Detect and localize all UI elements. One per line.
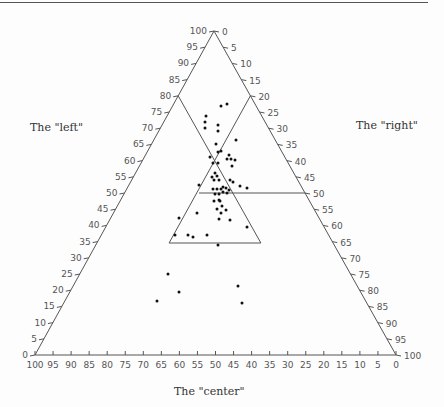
- left-tick: [30, 355, 35, 356]
- data-point: [246, 226, 249, 229]
- data-point: [225, 209, 228, 212]
- left-tick-label: 30: [70, 253, 82, 263]
- right-tick-label: 95: [395, 335, 406, 345]
- left-tick-label: 65: [133, 139, 144, 149]
- ref-line-left80: [178, 96, 261, 243]
- data-point: [229, 219, 232, 222]
- data-point: [220, 212, 223, 215]
- bottom-tick-label: 90: [65, 360, 77, 370]
- data-point: [174, 234, 177, 237]
- data-point: [231, 165, 234, 168]
- right-axis-label: The "right": [356, 114, 418, 133]
- right-tick-label: 80: [368, 286, 380, 296]
- data-point: [204, 121, 207, 124]
- right-tick-label: 85: [377, 302, 388, 312]
- left-tick-label: 10: [34, 318, 46, 328]
- bottom-tick-label: 5: [375, 360, 381, 370]
- bottom-tick-label: 80: [101, 360, 113, 370]
- data-point: [232, 181, 235, 184]
- left-tick-label: 35: [79, 237, 90, 247]
- data-point: [198, 184, 201, 187]
- left-axis-label: The "left": [30, 116, 83, 135]
- bottom-tick-label: 0: [393, 360, 399, 370]
- left-tick-label: 50: [106, 188, 118, 198]
- left-tick-label: 15: [43, 301, 54, 311]
- bottom-tick-label: 85: [83, 360, 94, 370]
- data-point: [167, 273, 170, 276]
- left-tick-label: 45: [97, 204, 108, 214]
- right-tick-label: 30: [277, 124, 289, 134]
- data-point: [226, 192, 229, 195]
- data-point: [228, 189, 231, 192]
- data-point: [218, 218, 221, 221]
- data-point: [214, 193, 217, 196]
- right-axis-label-text: The "right": [356, 119, 418, 132]
- bottom-tick-label: 20: [318, 360, 330, 370]
- right-tick-label: 10: [240, 59, 252, 69]
- left-tick-label: 25: [61, 269, 72, 279]
- bottom-tick-label: 45: [228, 360, 239, 370]
- bottom-tick-label: 100: [26, 360, 43, 370]
- data-point: [209, 156, 212, 159]
- data-point: [222, 186, 225, 189]
- data-point: [226, 158, 229, 161]
- bottom-tick-label: 40: [246, 360, 258, 370]
- data-point: [217, 151, 220, 154]
- bottom-tick-label: 30: [282, 360, 294, 370]
- bottom-tick-label: 50: [210, 360, 222, 370]
- left-tick-label: 55: [115, 172, 126, 182]
- data-point: [212, 162, 215, 165]
- data-point: [196, 212, 199, 215]
- right-tick-label: 45: [304, 173, 315, 183]
- data-point: [156, 300, 159, 303]
- left-tick-label: 75: [151, 107, 162, 117]
- right-tick-label: 90: [386, 319, 398, 329]
- data-point: [246, 187, 249, 190]
- left-tick-label: 85: [169, 75, 180, 85]
- right-tick-label: 0: [222, 27, 228, 37]
- data-point: [217, 162, 220, 165]
- bottom-tick-label: 60: [174, 360, 186, 370]
- data-point: [212, 188, 215, 191]
- data-point: [215, 143, 218, 146]
- data-point: [217, 244, 220, 247]
- data-point: [187, 234, 190, 237]
- right-tick-label: 40: [295, 157, 307, 167]
- data-point: [213, 200, 216, 203]
- data-point: [218, 179, 221, 182]
- data-point: [241, 302, 244, 305]
- data-point: [214, 172, 217, 175]
- bottom-tick-label: 75: [120, 360, 131, 370]
- left-tick-label: 0: [22, 350, 28, 360]
- left-tick-label: 95: [187, 42, 198, 52]
- bottom-tick-label: 15: [336, 360, 347, 370]
- data-point: [192, 236, 195, 239]
- ref-line-right20: [169, 96, 250, 243]
- data-point: [228, 154, 231, 157]
- data-point: [239, 185, 242, 188]
- left-tick-label: 20: [52, 285, 64, 295]
- bottom-tick-label: 95: [47, 360, 58, 370]
- data-point: [219, 200, 222, 203]
- data-point: [220, 150, 223, 153]
- left-tick-label: 60: [124, 156, 136, 166]
- right-tick-label: 50: [313, 189, 325, 199]
- ternary-plot: 0510152025303540455055606570758085909510…: [0, 0, 444, 407]
- left-axis-label-text: The "left": [30, 121, 83, 134]
- left-tick-label: 90: [178, 58, 190, 68]
- data-point: [237, 285, 240, 288]
- data-point: [204, 127, 207, 130]
- data-point: [217, 130, 220, 133]
- bottom-axis-label: The "center": [174, 380, 245, 399]
- data-point: [217, 124, 220, 127]
- data-point: [229, 179, 232, 182]
- right-tick-label: 5: [231, 43, 237, 53]
- data-point: [234, 159, 237, 162]
- left-tick-label: 40: [88, 220, 100, 230]
- left-tick-label: 100: [190, 26, 207, 36]
- data-point: [230, 158, 233, 161]
- bottom-axis-label-text: The "center": [174, 385, 245, 398]
- right-tick-label: 70: [349, 254, 361, 264]
- left-tick-label: 70: [142, 123, 154, 133]
- right-tick-label: 20: [258, 92, 270, 102]
